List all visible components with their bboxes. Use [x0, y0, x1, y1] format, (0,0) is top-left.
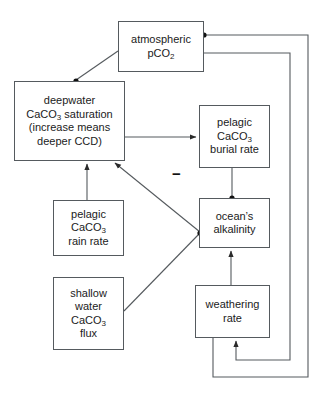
node-label-line2: rate: [223, 312, 242, 326]
diagram-canvas: atmospheric pCO2 deepwater CaCO3 saturat…: [0, 0, 324, 393]
node-label-line2: pCO2: [147, 47, 174, 61]
node-pelagic-caco3-rain-rate[interactable]: pelagic CaCO3 rain rate: [53, 200, 124, 256]
node-label-line2: alkalinity: [213, 223, 255, 237]
node-shallow-water-caco3-flux[interactable]: shallow water CaCO3 flux: [53, 277, 124, 350]
node-label-line3: (increase means: [29, 121, 110, 135]
node-label-line3: rain rate: [68, 235, 108, 249]
node-label-line1: weathering: [206, 298, 260, 312]
edge-shallow-flux-to-alkalinity: [124, 234, 199, 311]
node-oceans-alkalinity[interactable]: ocean’s alkalinity: [199, 198, 270, 248]
node-label-line2: CaCO3 saturation: [26, 108, 112, 122]
node-atmospheric-pco2[interactable]: atmospheric pCO2: [118, 21, 204, 72]
edge-alkalinity-to-deepwater: [115, 163, 200, 232]
node-label-line1: deepwater: [44, 94, 95, 108]
node-label-line1: shallow: [70, 287, 107, 301]
edge-atmospheric-to-deepwater: [76, 51, 118, 80]
node-label-line1: atmospheric: [131, 33, 191, 47]
node-weathering-rate[interactable]: weathering rate: [195, 285, 270, 338]
node-label-line4: flux: [80, 327, 97, 341]
node-label-line1: ocean’s: [216, 210, 254, 224]
node-label-line3: CaCO3: [71, 314, 106, 328]
node-label-line1: pelagic: [71, 208, 106, 222]
node-deepwater-caco3-saturation[interactable]: deepwater CaCO3 saturation (increase mea…: [14, 81, 125, 161]
node-label-line2: CaCO3: [217, 130, 252, 144]
node-label-line2: CaCO3: [71, 221, 106, 235]
node-pelagic-caco3-burial-rate[interactable]: pelagic CaCO3 burial rate: [199, 105, 270, 168]
node-label-line4: deeper CCD): [37, 135, 102, 149]
node-label-line1: pelagic: [217, 116, 252, 130]
node-label-line2: water: [75, 300, 102, 314]
node-label-line3: burial rate: [210, 143, 259, 157]
negative-sign-annotation: −: [172, 166, 181, 181]
